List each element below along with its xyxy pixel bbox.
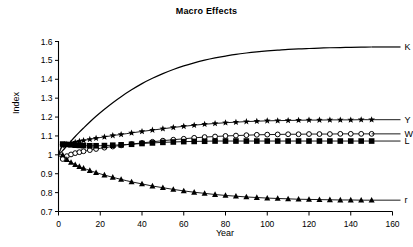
marker-square-filled [285,138,291,144]
marker-square-filled [181,139,187,145]
marker-square-filled [160,140,166,146]
x-tick-label: 60 [179,219,189,229]
marker-square-filled [296,138,302,144]
marker-square-filled [81,143,87,149]
marker-star [139,128,146,134]
marker-square-filled [317,138,323,144]
marker-star [306,117,313,123]
marker-square-filled [212,138,218,144]
marker-circle-open [327,132,332,137]
x-tick-label: 80 [221,219,231,229]
marker-star [264,117,271,123]
marker-square-filled [129,141,135,147]
marker-square-filled [358,138,364,144]
x-tick-label: 100 [260,219,274,229]
marker-square-filled [171,139,177,145]
marker-circle-open [254,132,259,137]
marker-triangle-filled [68,159,74,165]
marker-star [337,116,344,122]
marker-circle-open [317,132,322,137]
marker-square-filled [254,138,260,144]
marker-star [93,135,100,141]
series-label-L[interactable]: L [405,136,410,146]
marker-square-filled [191,139,197,145]
marker-circle-open [223,134,228,139]
x-tick-label: 140 [344,219,358,229]
marker-square-filled [275,138,281,144]
marker-star [212,120,219,126]
x-tick-label: 20 [96,219,106,229]
marker-circle-open [244,133,249,138]
y-tick-label: 1 [48,150,53,160]
marker-circle-open [213,134,218,139]
marker-star [191,122,198,128]
y-tick-label: 1.6 [41,37,53,47]
series-L: L [59,136,410,155]
marker-square-filled [338,138,344,144]
marker-square-filled [110,142,116,148]
marker-square-filled [118,142,124,148]
marker-star [118,131,125,137]
y-tick-label: 1.3 [41,93,53,103]
marker-square-filled [93,143,99,149]
marker-star [80,137,87,143]
marker-star [201,121,208,127]
marker-star [101,133,108,139]
marker-square-filled [202,138,208,144]
marker-star [160,125,167,131]
series-r: r [59,152,408,206]
series-label-K[interactable]: K [405,42,411,52]
marker-circle-open [348,131,353,136]
marker-circle-open [265,132,270,137]
series-label-Y[interactable]: Y [405,115,411,125]
marker-circle-open [81,149,86,154]
y-tick-label: 1.1 [41,131,53,141]
marker-star [109,132,116,138]
marker-square-filled [264,138,270,144]
marker-square-filled [87,143,93,149]
marker-star [149,127,156,133]
marker-star [295,117,302,123]
marker-square-filled [150,140,156,146]
y-tick-label: 0.8 [41,188,53,198]
marker-star [128,129,135,135]
marker-star [358,116,365,122]
y-tick-label: 0.7 [41,207,53,217]
y-tick-label: 0.9 [41,169,53,179]
marker-star [243,118,250,124]
marker-square-filled [139,141,145,147]
marker-circle-open [286,132,291,137]
marker-square-filled [102,143,108,149]
marker-square-filled [244,138,250,144]
x-tick-label: 120 [302,219,316,229]
marker-star [274,117,281,123]
marker-star [285,117,292,123]
marker-circle-open [359,131,364,136]
marker-circle-open [296,132,301,137]
marker-star [347,116,354,122]
marker-star [180,123,187,129]
y-tick-label: 1.4 [41,74,53,84]
macro-effects-chart: Macro Effects Index 0.70.80.911.11.21.31… [0,0,413,247]
marker-star [233,119,240,125]
series-label-r[interactable]: r [405,195,408,205]
y-tick-label: 1.5 [41,55,53,65]
x-axis-title: Year [58,228,392,238]
marker-circle-open [234,133,239,138]
marker-circle-open [338,131,343,136]
marker-star [222,119,229,125]
x-tick-label: 0 [56,219,61,229]
marker-star [86,136,93,142]
marker-star [170,124,177,130]
marker-star [327,116,334,122]
plot-area: 0.70.80.911.11.21.31.41.51.6020406080100… [0,0,413,247]
marker-square-filled [348,138,354,144]
marker-square-filled [233,138,239,144]
marker-circle-open [275,132,280,137]
x-tick-label: 40 [137,219,147,229]
marker-star [316,117,323,123]
y-tick-label: 1.2 [41,112,53,122]
x-tick-label: 160 [385,219,399,229]
marker-star [253,118,260,124]
marker-square-filled [223,138,229,144]
